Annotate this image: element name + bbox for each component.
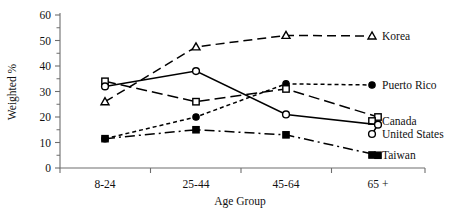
legend: KoreaPuerto RicoCanadaUnited StatesTaiwa… [382,30,444,161]
x-axis-title: Age Group [214,195,266,208]
series-line [105,130,378,156]
data-point [193,99,199,105]
series-taiwan [102,127,381,159]
legend-marker [369,131,376,138]
series-korea [101,31,376,104]
legend-label-taiwan: Taiwan [382,149,416,161]
y-tick-label: 0 [45,162,51,174]
y-tick-label: 10 [40,137,52,149]
data-point [102,135,108,141]
y-tick-label: 60 [40,9,52,21]
legend-marker [369,152,375,158]
y-tick-label: 50 [40,35,52,47]
tick-labels: 01020304050608-2425-4445-6465 + [40,9,389,190]
data-point [283,132,289,138]
x-tick-label: 25-44 [183,178,210,190]
data-point [283,86,289,92]
data-point [192,43,200,50]
legend-label-korea: Korea [382,30,410,42]
y-axis-title: Weighted % [6,63,19,120]
x-tick-label: 8-24 [94,178,115,190]
data-point [282,31,290,38]
legend-label-canada: Canada [382,115,416,127]
line-chart: 01020304050608-2425-4445-6465 + KoreaPue… [0,0,472,215]
chart-canvas: 01020304050608-2425-4445-6465 + KoreaPue… [0,0,472,215]
y-tick-label: 20 [40,111,52,123]
legend-label-puerto-rico: Puerto Rico [382,79,437,91]
data-series [101,31,381,158]
data-point [375,121,382,128]
data-point [193,68,200,75]
data-point [193,114,199,120]
legend-marker [369,82,375,88]
y-tick-label: 40 [40,60,52,72]
series-canada [102,78,381,124]
x-tick-label: 45-64 [273,178,300,190]
series-line [105,81,378,121]
data-point [101,98,109,105]
series-line [105,71,378,134]
legend-label-united-states: United States [382,128,444,140]
x-tick-label: 65 + [368,178,389,190]
legend-marker [368,32,376,39]
y-tick-label: 30 [40,86,52,98]
data-point [193,127,199,133]
data-point [102,83,109,90]
data-point [283,111,290,118]
